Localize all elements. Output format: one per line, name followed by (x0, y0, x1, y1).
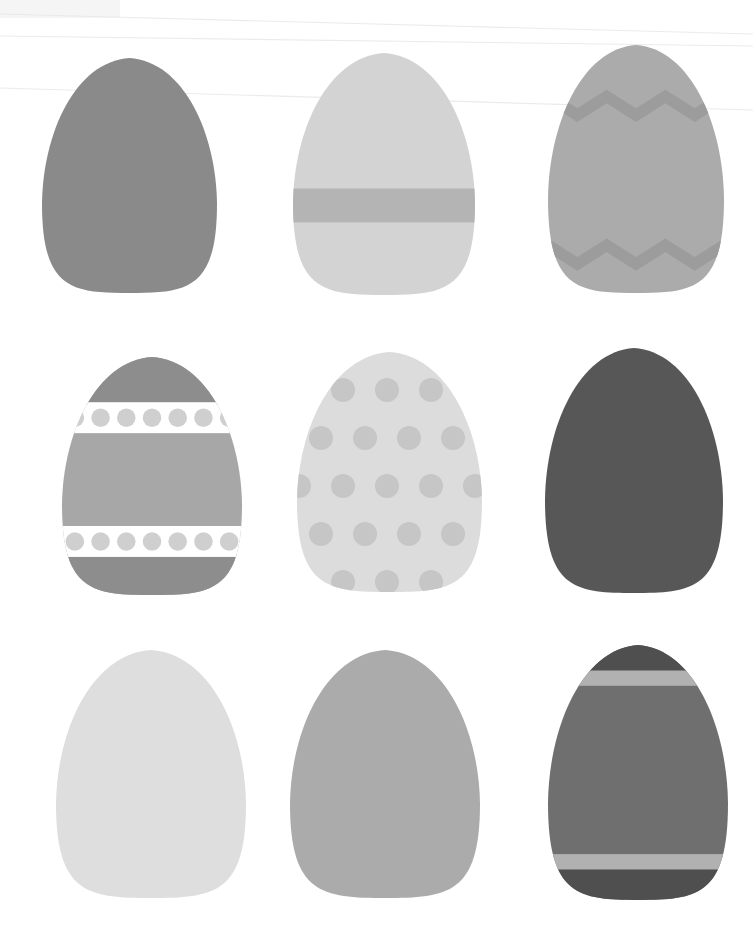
polka-dot-light-egg-shape (297, 352, 482, 592)
zigzag-gray-egg[interactable] (548, 45, 724, 293)
egg-5-polka-dot (463, 570, 482, 592)
banded-light-gray-egg-shape (293, 53, 475, 295)
egg-5-polka-dot (353, 426, 377, 450)
dotted-band-gray-egg-band-lower-white-dot (66, 532, 85, 551)
plain-mid-gray-egg-shape (290, 650, 480, 898)
banded-light-gray-egg[interactable] (293, 53, 475, 295)
egg-5-polka-dot (331, 378, 355, 402)
egg-9-bottom-cap (548, 869, 728, 900)
egg-5-polka-dot (309, 352, 333, 354)
egg-5-polka-dot (419, 474, 443, 498)
egg-5-polka-dot (397, 522, 421, 546)
dotted-band-gray-egg-band-lower-white-dot (168, 532, 187, 551)
plain-pale-egg-body (56, 650, 246, 898)
egg-4-top-cap (62, 357, 242, 405)
plain-pale-egg-shape (56, 650, 246, 898)
dotted-band-gray-egg-band-lower-white-dot (91, 532, 110, 551)
striped-dark-egg-band-top-light (548, 671, 728, 686)
plain-dark-gray-egg-shape (42, 58, 217, 293)
zigzag-gray-egg-shape (548, 45, 724, 293)
dotted-band-gray-egg-band-upper-white-dot (66, 408, 85, 427)
plain-mid-gray-egg[interactable] (290, 650, 480, 898)
egg-5-polka-dot (463, 378, 482, 402)
egg-4-bottom-cap (62, 555, 242, 595)
egg-5-polka-dot (297, 570, 311, 592)
dotted-band-gray-egg-band-upper-white-dot (220, 408, 239, 427)
plain-charcoal-egg-body (545, 348, 723, 593)
dotted-band-gray-egg-band-upper-white-dot (117, 408, 136, 427)
egg-5-polka-dot (375, 474, 399, 498)
plain-mid-gray-egg-body (290, 650, 480, 898)
plain-pale-egg[interactable] (56, 650, 246, 898)
striped-dark-egg-shape (548, 645, 728, 900)
egg-5-polka-dot (397, 426, 421, 450)
egg-5-polka-dot (441, 426, 465, 450)
egg-5-polka-dot (375, 378, 399, 402)
banded-light-gray-egg-body (293, 53, 475, 295)
egg-5-polka-dot (441, 522, 465, 546)
dotted-band-gray-egg-band-upper-white-dot (143, 408, 162, 427)
dotted-band-gray-egg[interactable] (62, 357, 242, 595)
dotted-band-gray-egg-band-upper-white-dot (194, 408, 213, 427)
egg-9-top-cap (548, 645, 728, 672)
egg-5-polka-dot (441, 352, 465, 354)
striped-dark-egg-band-bottom-light (548, 854, 728, 869)
dotted-band-gray-egg-band-lower-white-dot (220, 532, 239, 551)
egg-grid (0, 0, 753, 942)
plain-dark-gray-egg-body (42, 58, 217, 293)
dotted-band-gray-egg-band-lower-white-dot (117, 532, 136, 551)
plain-charcoal-egg[interactable] (545, 348, 723, 593)
plain-dark-gray-egg[interactable] (42, 58, 217, 293)
dotted-band-gray-egg-band-lower-white-dot (194, 532, 213, 551)
egg-5-polka-dot (353, 352, 377, 354)
striped-dark-egg[interactable] (548, 645, 728, 900)
banded-light-gray-egg-band-middle (293, 189, 475, 223)
egg-5-polka-dot (419, 378, 443, 402)
egg-5-polka-dot (309, 522, 333, 546)
egg-5-polka-dot (353, 522, 377, 546)
dotted-band-gray-egg-band-upper-white-dot (91, 408, 110, 427)
illustration-canvas (0, 0, 753, 942)
polka-dot-light-egg[interactable] (297, 352, 482, 592)
dotted-band-gray-egg-shape (62, 357, 242, 595)
dotted-band-gray-egg-band-upper-white-dot (168, 408, 187, 427)
egg-5-polka-dot (297, 378, 311, 402)
dotted-band-gray-egg-band-lower-white-dot (143, 532, 162, 551)
egg-5-polka-dot (309, 426, 333, 450)
plain-charcoal-egg-shape (545, 348, 723, 593)
egg-5-polka-dot (331, 474, 355, 498)
